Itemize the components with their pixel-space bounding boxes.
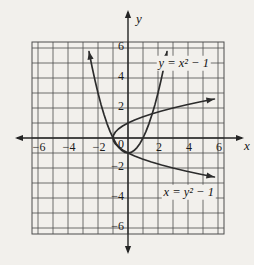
y-tick-label: 6 bbox=[118, 39, 124, 53]
arrowhead bbox=[125, 246, 131, 254]
arrowhead bbox=[15, 135, 23, 141]
x-tick-label: 6 bbox=[216, 140, 222, 154]
y-tick-label: −6 bbox=[111, 219, 124, 233]
y-tick-label: −4 bbox=[111, 189, 124, 203]
origin-label: 0 bbox=[118, 138, 124, 150]
curve-label-y-equals-x-squared-minus-1: y = x² − 1 bbox=[157, 56, 211, 71]
curve-label-x-equals-y-squared-minus-1: x = y² − 1 bbox=[162, 185, 216, 200]
x-tick-label: −2 bbox=[93, 140, 106, 154]
arrowhead bbox=[236, 135, 244, 141]
x-tick-label: 2 bbox=[156, 140, 162, 154]
y-tick-label: 2 bbox=[118, 99, 124, 113]
x-tick-label: −4 bbox=[63, 140, 76, 154]
graph-figure: −6−4−2246642−2−4−6 y x 0 y = x² − 1 x = … bbox=[0, 0, 254, 265]
x-tick-label: −6 bbox=[33, 140, 46, 154]
graph-canvas: −6−4−2246642−2−4−6 bbox=[0, 0, 254, 265]
y-tick-label: −2 bbox=[111, 159, 124, 173]
x-tick-label: 4 bbox=[186, 140, 192, 154]
arrowhead bbox=[125, 10, 131, 18]
y-axis-label: y bbox=[136, 12, 142, 25]
y-tick-label: 4 bbox=[118, 69, 124, 83]
x-axis-label: x bbox=[244, 139, 250, 152]
